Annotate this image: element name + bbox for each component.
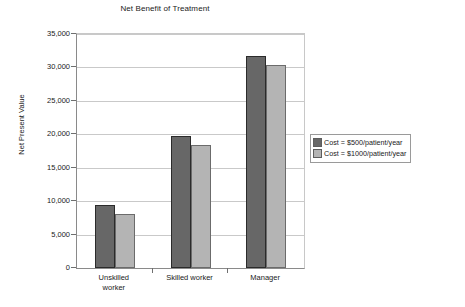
legend-swatch-icon xyxy=(313,138,322,147)
y-tick-label: 0 xyxy=(10,263,70,272)
y-tick-label: 10,000 xyxy=(10,196,70,205)
chart-container: Net Benefit of Treatment Net Present Val… xyxy=(0,0,465,307)
bar xyxy=(171,136,191,268)
y-tick-label: 5,000 xyxy=(10,229,70,238)
chart-legend: Cost = $500/patient/yearCost = $1000/pat… xyxy=(310,134,411,163)
plot-area xyxy=(76,33,305,269)
y-tick-label: 20,000 xyxy=(10,129,70,138)
bar xyxy=(115,214,135,268)
y-tick-mark xyxy=(71,167,76,168)
y-axis-title: Net Present Value xyxy=(17,75,26,175)
y-tick-mark xyxy=(71,33,76,34)
y-tick-label: 15,000 xyxy=(10,162,70,171)
x-axis-label-line: Manager xyxy=(227,273,303,283)
y-tick-mark xyxy=(71,200,76,201)
x-axis-label-line: worker xyxy=(76,283,152,293)
legend-item[interactable]: Cost = $1000/patient/year xyxy=(313,148,407,159)
y-tick-mark xyxy=(71,100,76,101)
bar xyxy=(266,65,286,268)
gridline xyxy=(77,34,304,35)
x-axis-label: Unskilledworker xyxy=(76,273,152,293)
x-axis-label: Manager xyxy=(227,273,303,283)
y-tick-mark xyxy=(71,267,76,268)
bar xyxy=(191,145,211,268)
bar xyxy=(95,205,115,269)
legend-label: Cost = $500/patient/year xyxy=(324,138,403,147)
legend-swatch-icon xyxy=(313,149,322,158)
chart-title: Net Benefit of Treatment xyxy=(0,4,330,13)
x-axis-label: Skilled worker xyxy=(152,273,228,283)
y-tick-mark xyxy=(71,66,76,67)
y-tick-label: 30,000 xyxy=(10,62,70,71)
bar xyxy=(246,56,266,268)
x-axis-label-line: Skilled worker xyxy=(152,273,228,283)
y-tick-mark xyxy=(71,234,76,235)
legend-label: Cost = $1000/patient/year xyxy=(324,149,407,158)
x-axis-label-line: Unskilled xyxy=(76,273,152,283)
y-tick-mark xyxy=(71,133,76,134)
legend-item[interactable]: Cost = $500/patient/year xyxy=(313,137,407,148)
y-tick-label: 25,000 xyxy=(10,95,70,104)
y-tick-label: 35,000 xyxy=(10,29,70,38)
